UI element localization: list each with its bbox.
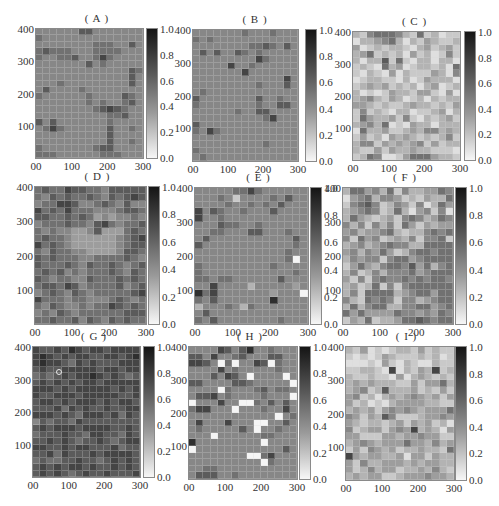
heatmap-cell	[189, 426, 196, 433]
heatmap-cell	[35, 208, 42, 215]
heatmap-cell	[268, 387, 275, 394]
heatmap-cell	[446, 256, 453, 263]
heatmap-cell	[424, 276, 431, 283]
heatmap-cell	[218, 354, 225, 361]
heatmap-cell	[360, 467, 367, 474]
heatmap-cell	[218, 439, 225, 446]
heatmap-cell	[263, 222, 271, 229]
heatmap-cell	[278, 249, 286, 256]
heatmap-cell	[263, 229, 271, 236]
heatmap-cell	[353, 453, 360, 460]
heatmap-cell	[211, 367, 218, 374]
colorbar-tick-label: 0.8	[478, 52, 492, 63]
heatmap-cell	[255, 270, 263, 277]
heatmap-cell	[203, 256, 211, 263]
heatmap-cell	[368, 467, 375, 474]
heatmap-cell	[438, 263, 445, 270]
heatmap-cell	[232, 439, 239, 446]
heatmap-cell	[72, 262, 79, 269]
heatmap-cell	[94, 290, 101, 297]
heatmap-cell	[290, 453, 297, 460]
heatmap-cell	[218, 453, 225, 460]
heatmap-cell	[57, 194, 64, 201]
heatmap-cell	[358, 317, 365, 324]
x-tick-label: 300	[446, 483, 463, 494]
heatmap-cell	[382, 453, 389, 460]
heatmap-cell	[240, 283, 248, 290]
heatmap-cell	[203, 472, 210, 479]
heatmap-cell	[268, 360, 275, 367]
heatmap-cell	[94, 303, 101, 310]
heatmap-cell	[189, 433, 196, 440]
heatmap-cell	[346, 414, 353, 421]
heatmap-cell	[232, 354, 239, 361]
heatmap-cell	[50, 297, 57, 304]
heatmap-cell	[382, 394, 389, 401]
heatmap-cell	[278, 229, 286, 236]
heatmap-cell	[372, 304, 379, 311]
heatmap-plot	[346, 347, 454, 480]
heatmap-cell	[225, 413, 232, 420]
heatmap-cell	[350, 304, 357, 311]
heatmap-cell	[79, 297, 86, 304]
heatmap-cell	[418, 380, 425, 387]
heatmap-cell	[425, 467, 432, 474]
heatmap-cell	[380, 229, 387, 236]
heatmap-cell	[431, 276, 438, 283]
heatmap-cell	[233, 188, 241, 195]
heatmap-cell	[285, 242, 293, 249]
panel-d: ( D ) 400300200100 00100200300 1.00.80.6…	[35, 187, 146, 324]
heatmap-cell	[35, 194, 42, 201]
heatmap-cell	[372, 195, 379, 202]
heatmap-cell	[233, 263, 241, 270]
heatmap-cell	[102, 228, 109, 235]
heatmap-cell	[404, 374, 411, 381]
heatmap-cell	[394, 208, 401, 215]
heatmap-cell	[358, 297, 365, 304]
heatmap-cell	[240, 236, 248, 243]
heatmap-cell	[350, 297, 357, 304]
heatmap-cell	[447, 427, 454, 434]
heatmap-cell	[290, 413, 297, 420]
heatmap-cell	[360, 400, 367, 407]
heatmap-cell	[203, 249, 211, 256]
heatmap-cell	[270, 283, 278, 290]
heatmap-cell	[248, 202, 256, 209]
heatmap-cell	[218, 222, 226, 229]
y-tick-label: 400	[18, 24, 35, 35]
heatmap-cell	[389, 394, 396, 401]
heatmap-cell	[211, 387, 218, 394]
heatmap-cell	[418, 467, 425, 474]
heatmap-cell	[353, 154, 360, 160]
panel-title: ( I )	[346, 330, 467, 343]
colorbar-tick-label: 0.8	[469, 368, 483, 379]
heatmap-cell	[350, 283, 357, 290]
heatmap-cell	[79, 208, 86, 215]
panel-title: ( E )	[195, 171, 322, 184]
heatmap-cell	[275, 453, 282, 460]
heatmap-cell	[380, 263, 387, 270]
heatmap-cell	[225, 297, 233, 304]
heatmap-cell	[196, 453, 203, 460]
colorbar-tick-label: 1.0	[478, 27, 492, 38]
heatmap-cell	[440, 354, 447, 361]
heatmap-cell	[394, 236, 401, 243]
heatmap-cell	[380, 310, 387, 317]
heatmap-cell	[396, 467, 403, 474]
heatmap-cell	[447, 400, 454, 407]
heatmap-cell	[360, 367, 367, 374]
x-tick-label: 00	[28, 480, 39, 491]
heatmap-cell	[353, 374, 360, 381]
heatmap-cell	[35, 262, 42, 269]
heatmap-cell	[365, 256, 372, 263]
heatmap-cell	[283, 387, 290, 394]
heatmap-cell	[375, 394, 382, 401]
heatmap-cell	[79, 214, 86, 221]
heatmap-cell	[350, 276, 357, 283]
heatmap-cell	[189, 400, 196, 407]
heatmap-cell	[404, 407, 411, 414]
heatmap-cell	[446, 236, 453, 243]
heatmap-cell	[387, 317, 394, 324]
heatmap-cell	[225, 360, 232, 367]
heatmap-cell	[247, 466, 254, 473]
